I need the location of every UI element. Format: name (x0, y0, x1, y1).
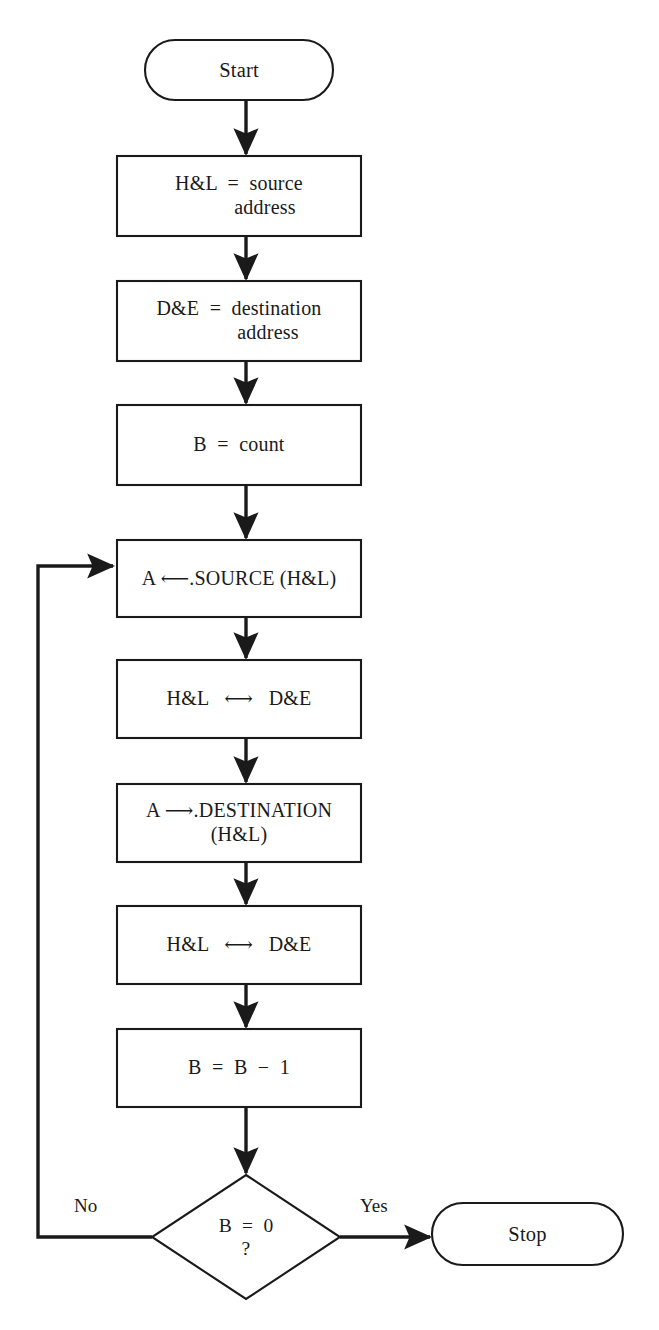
process-a-load-source-shape (117, 540, 361, 617)
process-b-count-shape (117, 405, 361, 485)
process-swap-hl-de-first-shape (117, 660, 361, 738)
process-hl-source-address-shape (117, 156, 361, 236)
process-decrement-b-shape (117, 1029, 361, 1107)
start-terminator-shape (145, 40, 333, 100)
process-swap-hl-de-second-shape (117, 906, 361, 984)
flowchart-shapes-and-connectors (0, 0, 659, 1330)
process-de-destination-address-shape (117, 281, 361, 361)
process-a-store-destination-shape (117, 784, 361, 862)
flowchart-canvas: Start H&L = source address D&E = destina… (0, 0, 659, 1330)
stop-terminator-shape (432, 1203, 623, 1265)
decision-b-equals-zero-shape (152, 1175, 340, 1299)
